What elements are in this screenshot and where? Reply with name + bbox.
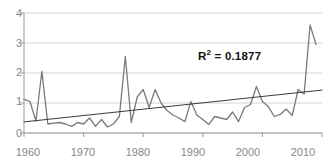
trendline	[24, 90, 322, 122]
r-squared-label: R	[198, 50, 207, 62]
chart-container: 4 3 2 1 0 1960 1970 1980 1990 2000 2010 …	[0, 0, 330, 165]
plot-area	[0, 0, 330, 165]
axis-ticks	[20, 13, 322, 137]
r-squared-annotation: R2 = 0.1877	[198, 48, 261, 62]
r-squared-value: = 0.1877	[211, 50, 261, 62]
data-series-line	[24, 25, 316, 127]
